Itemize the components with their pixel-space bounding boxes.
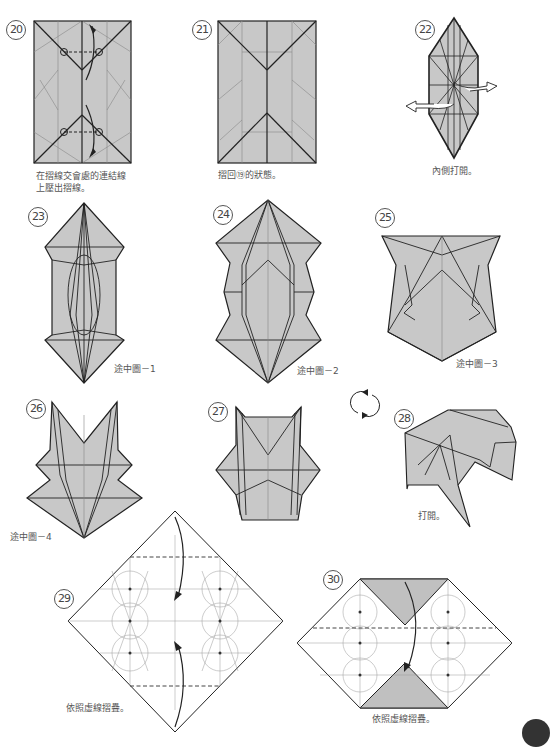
step-23-diagram bbox=[0, 195, 180, 385]
step-caption: 摺回⑲的狀態。 bbox=[218, 169, 281, 181]
step-24: 24 途中圖－2 bbox=[180, 195, 360, 385]
step-25-diagram bbox=[360, 195, 536, 385]
step-23: 23 途中圖－1 bbox=[0, 195, 180, 385]
step-caption: 途中圖－4 bbox=[10, 531, 52, 543]
step-caption: 在摺線交會處的連結線 上壓出摺線。 bbox=[36, 170, 126, 194]
step-caption: 途中圖－1 bbox=[114, 363, 156, 375]
step-30: 30 依照虛線摺疊。 bbox=[290, 560, 536, 733]
step-28: 28 打開。 bbox=[340, 385, 536, 545]
step-caption: 途中圖－2 bbox=[297, 365, 339, 377]
step-29-diagram bbox=[60, 505, 300, 733]
step-caption: 途中圖－3 bbox=[456, 358, 498, 370]
step-24-diagram bbox=[180, 195, 360, 385]
step-29: 29 依照虛線摺疊。 bbox=[60, 505, 300, 733]
step-caption: 內側打開。 bbox=[432, 165, 477, 177]
step-caption: 打開。 bbox=[418, 510, 445, 522]
step-21: 21 摺回⑲的狀態。 bbox=[180, 0, 360, 200]
step-25: 25 途中圖－3 bbox=[360, 195, 536, 385]
step-caption: 依照虛線摺疊。 bbox=[372, 713, 435, 725]
page-corner-tab bbox=[522, 719, 550, 747]
step-20: 20 在摺線交會處的連結線 上壓出摺線。 bbox=[0, 0, 180, 200]
step-30-diagram bbox=[290, 560, 536, 733]
step-caption: 依照虛線摺疊。 bbox=[66, 702, 129, 714]
step-22: 22 內側打開。 bbox=[360, 0, 536, 200]
